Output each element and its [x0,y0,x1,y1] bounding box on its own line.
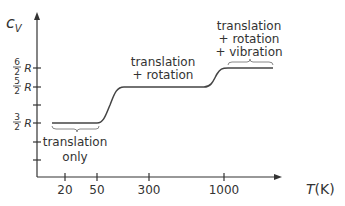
annotations: translation only translation + rotation … [43,19,283,164]
y-label-6-2R: 6 2 R [13,57,32,77]
x-tick-labels: 20 50 300 1000 [57,183,239,197]
annotation-translation-rotation-line2: + rotation [133,68,194,82]
svg-text:2: 2 [14,86,20,96]
brace-vibration [228,59,273,65]
x-tick-label: 1000 [209,183,240,197]
svg-text:6: 6 [14,57,20,67]
annotation-translation-only-line1: translation [43,135,108,149]
svg-text:2: 2 [14,122,20,132]
annotation-translation-only-line2: only [62,150,87,164]
x-tick-label: 20 [57,183,72,197]
x-tick-label: 50 [89,183,104,197]
y-label-5-2R: 5 2 R [13,76,32,96]
svg-text:R: R [24,81,32,94]
x-axis-title: T(K) [306,181,335,197]
annotation-vibration-line2: + rotation [219,32,280,46]
y-axis-arrow-icon [34,12,40,20]
brace-translation-only [52,126,99,132]
annotation-vibration-line3: + vibration [215,45,282,59]
svg-text:5: 5 [14,76,20,86]
x-axis-arrow-icon [274,174,282,180]
svg-text:3: 3 [14,112,20,122]
svg-text:R: R [24,117,32,130]
y-axis-title: cV [6,13,23,34]
y-tick-labels: 6 2 R 5 2 R 3 2 R [13,57,32,132]
annotation-translation-rotation-line1: translation [131,55,196,69]
y-label-3-2R: 3 2 R [13,112,32,132]
x-tick-label: 300 [138,183,161,197]
svg-text:R: R [24,62,32,75]
heat-capacity-chart: 20 50 300 1000 cV T(K) 6 2 R 5 2 R 3 2 R [0,0,345,206]
annotation-vibration-line1: translation [217,19,282,33]
